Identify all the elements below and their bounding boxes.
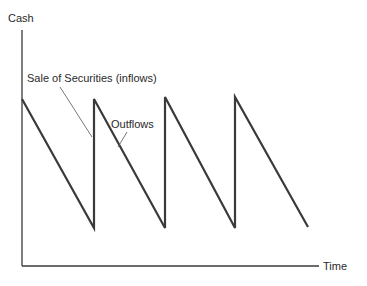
y-axis-label: Cash bbox=[8, 13, 34, 24]
x-axis-label: Time bbox=[323, 261, 347, 272]
inflows-annotation: Sale of Securities (inflows) bbox=[27, 73, 157, 84]
outflows-annotation: Outflows bbox=[111, 119, 154, 130]
cash-sawtooth-diagram bbox=[0, 0, 367, 286]
inflows-leader-line bbox=[60, 87, 92, 137]
outflows-leader-line bbox=[118, 132, 127, 147]
cash-balance-line bbox=[22, 97, 308, 228]
